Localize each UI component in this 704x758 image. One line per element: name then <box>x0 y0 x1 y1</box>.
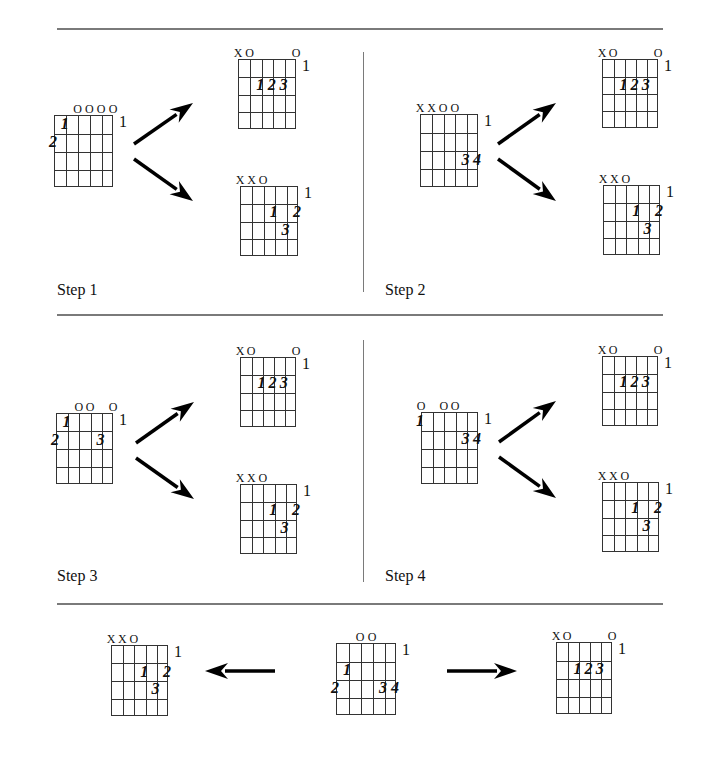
arrow-step2-down <box>498 159 556 201</box>
arrowhead-icon <box>170 181 193 201</box>
arrow-step4-up <box>499 401 556 442</box>
arrowhead-icon <box>533 181 556 201</box>
chord-transition-diagram: Step 1Step 2Step 3Step 4 G61OOOO12Amaj1X… <box>0 0 704 758</box>
arrow-step1-up <box>134 103 193 144</box>
arrowhead-icon <box>171 479 194 499</box>
arrowhead-icon <box>533 103 556 123</box>
arrow-step1-down <box>134 159 193 201</box>
arrow-step4-down <box>499 457 556 498</box>
arrow-step3-up <box>136 402 194 443</box>
arrowhead-icon <box>533 401 556 421</box>
arrow-step2-up <box>498 103 556 144</box>
arrowhead-icon <box>205 663 228 679</box>
transition-arrows <box>0 0 704 758</box>
arrow-bottom-right <box>447 663 517 679</box>
arrowhead-icon <box>533 478 556 498</box>
arrowhead-icon <box>494 663 517 679</box>
arrowhead-icon <box>171 402 194 422</box>
arrow-step3-down <box>136 458 194 499</box>
arrowhead-icon <box>170 103 194 123</box>
arrow-bottom-left <box>205 663 275 679</box>
